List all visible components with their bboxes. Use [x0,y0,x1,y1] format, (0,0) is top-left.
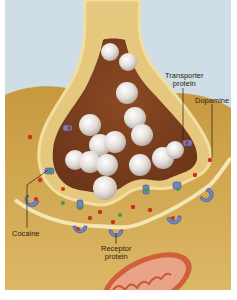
transporter-protein-label: Transporter protein [165,72,204,88]
cocaine-label: Cocaine [12,230,40,238]
receptor-protein-label: Receptor protein [101,245,131,261]
label-line: protein [101,253,131,261]
dopamine-label: Dopamine [195,97,229,105]
label-line: protein [165,80,204,88]
synapse-diagram: Transporter protein Dopamine Cocaine Rec… [5,0,231,290]
